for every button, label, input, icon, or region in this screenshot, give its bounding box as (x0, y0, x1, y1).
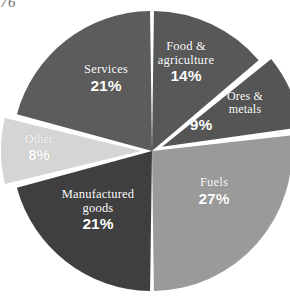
pie-label-fuels-line1: Fuels (178, 176, 250, 190)
pie-label-ores-metals-line1: Ores & (206, 90, 284, 103)
pie-label-food-agriculture-line2: agriculture (143, 54, 229, 68)
pie-label-other-line1: Other (6, 133, 72, 146)
pie-label-fuels: Fuels 27% (178, 176, 250, 207)
pie-label-ores-metals-line2: metals (206, 103, 284, 116)
pie-label-manufactured-goods-line1: Manufactured (44, 188, 152, 202)
pie-value-fuels: 27% (178, 191, 250, 208)
pie-value-manufactured-goods: 21% (44, 216, 152, 233)
pie-label-food-agriculture-line1: Food & (143, 40, 229, 54)
pie-label-services: Services 21% (58, 63, 154, 94)
pie-chart: Food & agriculture 14% Ores & metals 9% … (0, 0, 290, 301)
pie-label-other: Other 8% (6, 133, 72, 163)
pie-slice-2[interactable] (152, 135, 290, 291)
pie-label-food-agriculture: Food & agriculture 14% (143, 40, 229, 85)
pie-value-services: 21% (58, 78, 154, 95)
pie-value-food-agriculture: 14% (143, 68, 229, 85)
pie-label-services-line1: Services (58, 63, 154, 77)
pie-value-other: 8% (6, 147, 72, 163)
pie-label-manufactured-goods-line2: goods (44, 202, 152, 216)
pie-label-manufactured-goods: Manufactured goods 21% (44, 188, 152, 233)
pie-value-ores-metals: 9% (182, 117, 220, 134)
pie-label-ores-metals: Ores & metals 9% (206, 90, 284, 116)
